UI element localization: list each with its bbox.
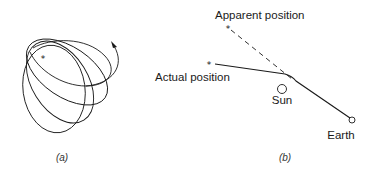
deflected-light-ray: [215, 64, 350, 118]
apparent-star-icon: *: [226, 24, 231, 34]
panel-a-caption: (a): [56, 152, 68, 163]
panel-a-precessing-orbit: [12, 26, 119, 137]
panel-b-caption: (b): [279, 152, 291, 163]
orbit-ellipse-3: [15, 26, 119, 119]
actual-position-label: Actual position: [155, 71, 230, 83]
earth-icon: [349, 117, 355, 123]
apparent-line-of-sight: [231, 30, 292, 79]
apparent-position-label: Apparent position: [215, 9, 305, 21]
sun-label: Sun: [272, 94, 292, 106]
orbit-ellipse-2: [12, 29, 107, 135]
earth-label: Earth: [327, 129, 355, 141]
figure-canvas: * (a) * * Apparent position Actual posit…: [0, 0, 372, 177]
orbit-arrowhead-icon: [111, 41, 117, 48]
orbit-arrow-arc: [86, 46, 118, 86]
orbit-central-star-icon: *: [41, 54, 46, 64]
sun-icon: [278, 85, 287, 94]
panel-b-light-deflection: [215, 30, 355, 123]
actual-star-icon: *: [207, 60, 212, 70]
